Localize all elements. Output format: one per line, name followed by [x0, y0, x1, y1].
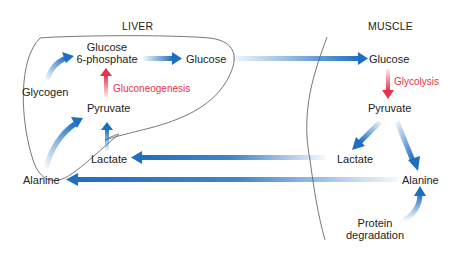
- muscle-label: MUSCLE: [368, 20, 413, 32]
- node-protein-degradation-line2: degradation: [340, 229, 410, 241]
- arrow-alanine-muscle-to-liver: [76, 177, 398, 182]
- node-muscle-lactate: Lactate: [337, 153, 373, 165]
- node-glucose-6-phosphate: Glucose 6-phosphate: [76, 41, 138, 65]
- muscle-boundary: [307, 37, 327, 240]
- liver-label: LIVER: [122, 20, 153, 32]
- node-liver-glucose: Glucose: [186, 53, 226, 65]
- arrow-glucose-liver-to-muscle: [232, 56, 360, 61]
- node-liver-pyruvate: Pyruvate: [87, 102, 130, 114]
- node-liver-alanine: Alanine: [23, 174, 60, 186]
- node-liver-lactate: Lactate: [91, 153, 127, 165]
- arrow-pyruvate-to-alanine-muscle: [397, 122, 413, 161]
- node-glucose-6-phosphate-line1: Glucose: [76, 41, 138, 53]
- arrow-pyruvate-to-lactate-muscle: [360, 122, 380, 142]
- node-muscle-pyruvate: Pyruvate: [368, 102, 411, 114]
- arrow-glycolysis: [386, 69, 390, 91]
- label-glycolysis: Glycolysis: [394, 76, 439, 88]
- node-muscle-glucose: Glucose: [369, 53, 409, 65]
- arrow-alanine-to-pyruvate-liver: [46, 124, 75, 168]
- node-protein-degradation-line1: Protein: [340, 217, 410, 229]
- node-protein-degradation: Protein degradation: [340, 217, 410, 241]
- label-gluconeogenesis: Gluconeogenesis: [113, 83, 190, 95]
- pathway-diagram: [0, 0, 454, 253]
- node-glucose-6-phosphate-line2: 6-phosphate: [76, 53, 138, 65]
- arrow-gluconeogenesis: [104, 75, 108, 97]
- arrow-lactate-to-pyruvate-liver: [105, 129, 109, 151]
- node-muscle-alanine: Alanine: [402, 174, 439, 186]
- arrow-g6p-to-glucose: [143, 56, 173, 61]
- node-glycogen: Glycogen: [22, 86, 68, 98]
- arrow-lactate-muscle-to-liver: [140, 155, 325, 160]
- arrow-glycogen-to-g6p: [47, 58, 66, 80]
